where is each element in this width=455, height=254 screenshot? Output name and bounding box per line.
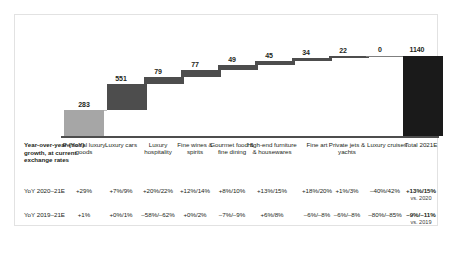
table-row-label-yoy-2020-21e: YoY 2020–21E — [24, 187, 65, 195]
table-cell: +6%/8% — [246, 211, 298, 218]
bar-value-label: 1140 — [394, 46, 440, 53]
table-cell-total: +13%/15% — [401, 187, 441, 194]
table-cell-total: –9%/–11% — [401, 211, 441, 218]
table-cell-total-note: vs. 2019 — [401, 219, 441, 226]
growth-table: Year-over-year (YoY) growth, at current … — [15, 137, 439, 227]
table-header-private-jets-yachts: Private jets & yachts — [327, 141, 367, 156]
table-header-high-end-furniture-housewares: High-end furniture & housewares — [246, 141, 298, 156]
chart-frame: 283 551 79 77 49 45 34 — [14, 14, 438, 226]
table-header-luxury-cruises: Luxury cruises — [367, 141, 407, 148]
waterfall-chart: 283 551 79 77 49 45 34 — [15, 15, 439, 123]
bar-total-2021e[interactable] — [403, 56, 443, 136]
waterfall-column-total-2021e[interactable]: 1140 — [394, 15, 440, 123]
table-cell: +13%/15% — [246, 187, 298, 194]
table-cell-total-note: vs. 2020 — [401, 195, 441, 202]
table-header-total-2021e: Total 2021E — [403, 141, 439, 148]
table-cell: +1%/3% — [327, 187, 367, 194]
table-row-label-yoy-2019-21e: YoY 2019–21E — [24, 211, 65, 219]
